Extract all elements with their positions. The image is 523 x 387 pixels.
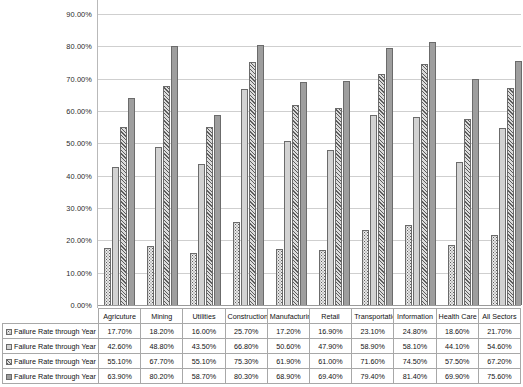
data-table: AgricutureMiningUtilitiesConstructionMan… — [2, 308, 521, 384]
table-cell: 69.40% — [309, 369, 351, 384]
table-cell: 63.90% — [99, 369, 141, 384]
table-row: Failure Rate through Year 1055.10%67.70%… — [3, 354, 521, 369]
legend-swatch-icon — [6, 329, 12, 335]
table-cell: 18.60% — [436, 324, 478, 339]
table-column-header: Transportation — [352, 309, 394, 324]
table-cell: 25.70% — [225, 324, 267, 339]
bar[interactable] — [319, 250, 326, 305]
bar[interactable] — [405, 225, 412, 305]
bar[interactable] — [214, 115, 221, 305]
bar-group — [399, 0, 442, 308]
bar[interactable] — [429, 42, 436, 305]
table-cell: 55.10% — [99, 354, 141, 369]
bar[interactable] — [206, 127, 213, 305]
table-column-header: Construction — [225, 309, 267, 324]
bar[interactable] — [491, 235, 498, 305]
table-cell: 58.70% — [183, 369, 225, 384]
bar[interactable] — [112, 167, 119, 305]
table-cell: 58.90% — [352, 339, 394, 354]
bar[interactable] — [284, 141, 291, 305]
bar[interactable] — [120, 127, 127, 305]
legend-swatch-icon — [6, 359, 12, 365]
table-cell: 16.00% — [183, 324, 225, 339]
table-cell: 57.50% — [436, 354, 478, 369]
bar[interactable] — [472, 79, 479, 305]
bar[interactable] — [456, 162, 463, 305]
table-cell: 48.80% — [141, 339, 183, 354]
plot-area — [97, 0, 521, 308]
bar-group — [184, 0, 227, 308]
table-column-header: Manufacturing — [267, 309, 309, 324]
table-cell: 74.50% — [394, 354, 436, 369]
bar-group — [313, 0, 356, 308]
legend-entry: Failure Rate through Year 15 — [3, 369, 99, 384]
bar[interactable] — [257, 45, 264, 305]
table-row: Failure Rate through Year 117.70%18.20%1… — [3, 324, 521, 339]
bar[interactable] — [276, 249, 283, 305]
bar[interactable] — [233, 222, 240, 305]
bar[interactable] — [413, 117, 420, 305]
y-axis-tick-label: 70.00% — [2, 74, 92, 83]
bar[interactable] — [190, 253, 197, 305]
table-cell: 43.50% — [183, 339, 225, 354]
bar[interactable] — [421, 64, 428, 305]
table-cell: 75.60% — [478, 369, 520, 384]
y-axis-tick-label: 90.00% — [2, 10, 92, 19]
bar[interactable] — [327, 150, 334, 305]
table-cell: 18.20% — [141, 324, 183, 339]
bar[interactable] — [448, 245, 455, 305]
table-cell: 24.80% — [394, 324, 436, 339]
table-cell: 55.10% — [183, 354, 225, 369]
bar[interactable] — [163, 86, 170, 305]
table-cell: 67.20% — [478, 354, 520, 369]
bar[interactable] — [464, 119, 471, 305]
bar[interactable] — [362, 230, 369, 305]
table-cell: 61.90% — [267, 354, 309, 369]
bar[interactable] — [343, 81, 350, 305]
table-column-header: Information — [394, 309, 436, 324]
y-axis-tick-label: 40.00% — [2, 171, 92, 180]
bar-groups — [98, 0, 521, 308]
bar-group — [485, 0, 523, 308]
bar[interactable] — [335, 108, 342, 305]
chart-screenshot: 90.00%80.00%70.00%60.00%50.00%40.00%30.0… — [0, 0, 523, 387]
legend-entry: Failure Rate through Year 1 — [3, 324, 99, 339]
table-corner-cell — [3, 309, 99, 324]
bar[interactable] — [386, 48, 393, 305]
bar[interactable] — [147, 246, 154, 305]
bar[interactable] — [515, 61, 522, 305]
table-cell: 47.90% — [309, 339, 351, 354]
table-cell: 66.80% — [225, 339, 267, 354]
table-column-header: Retail — [309, 309, 351, 324]
table-cell: 21.70% — [478, 324, 520, 339]
bar[interactable] — [249, 62, 256, 305]
bar[interactable] — [378, 74, 385, 306]
bar-chart: 90.00%80.00%70.00%60.00%50.00%40.00%30.0… — [0, 0, 523, 308]
bar[interactable] — [241, 89, 248, 305]
y-axis-tick-label: 20.00% — [2, 236, 92, 245]
bar[interactable] — [292, 105, 299, 305]
table-cell: 75.30% — [225, 354, 267, 369]
table-cell: 61.00% — [309, 354, 351, 369]
table-cell: 23.10% — [352, 324, 394, 339]
table-body: Failure Rate through Year 117.70%18.20%1… — [3, 324, 521, 384]
y-axis-tick-label: 10.00% — [2, 268, 92, 277]
table-cell: 16.90% — [309, 324, 351, 339]
legend-label: Failure Rate through Year 15 — [14, 372, 99, 381]
table-cell: 80.20% — [141, 369, 183, 384]
bar[interactable] — [507, 88, 514, 305]
table-cell: 68.90% — [267, 369, 309, 384]
bar[interactable] — [155, 147, 162, 305]
table-column-header: Utilities — [183, 309, 225, 324]
bar[interactable] — [104, 248, 111, 305]
bar[interactable] — [198, 164, 205, 305]
bar[interactable] — [128, 98, 135, 305]
bar-group — [270, 0, 313, 308]
bar[interactable] — [171, 46, 178, 305]
table-column-header: Mining — [141, 309, 183, 324]
bar[interactable] — [300, 82, 307, 305]
table-row: Failure Rate through Year 1563.90%80.20%… — [3, 369, 521, 384]
table-cell: 17.70% — [99, 324, 141, 339]
bar[interactable] — [370, 115, 377, 305]
bar[interactable] — [499, 128, 506, 305]
